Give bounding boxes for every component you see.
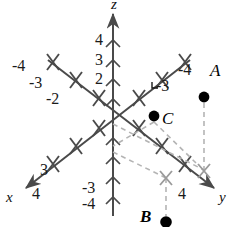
tick-label-y-neg2: -2 (46, 91, 59, 107)
coordinate-system-figure: x y z 3 4 -3 -4 4 -4 -3 -2 4 3 2 -3 -4 A… (0, 0, 236, 227)
point-label-b: B (140, 208, 151, 225)
plotted-points (149, 92, 210, 227)
projection-line-a-ground (113, 124, 204, 170)
point-label-a: A (210, 62, 220, 79)
tick-label-z-4: 4 (95, 32, 103, 48)
point-dot-a (199, 92, 210, 103)
tick-label-y-4: 4 (178, 186, 186, 202)
axis-label-y: y (219, 190, 226, 205)
point-dot-c (149, 111, 160, 122)
axis-label-x: x (6, 190, 13, 205)
axis-label-z: z (111, 0, 117, 12)
tick-label-y-neg3: -3 (29, 75, 42, 91)
tick-label-z-3: 3 (95, 52, 103, 68)
tick-label-x-neg3: -3 (156, 78, 169, 94)
ground-markers (160, 164, 210, 185)
tick-label-z-2: 2 (95, 71, 103, 87)
projection-line-b-ground (113, 152, 166, 178)
tick-label-x-3: 3 (40, 162, 48, 178)
point-label-c: C (162, 110, 173, 127)
tick-label-x-4: 4 (32, 186, 40, 202)
point-dot-b (160, 216, 172, 227)
tick-label-y-neg4: -4 (12, 58, 25, 74)
tick-label-x-neg4: -4 (178, 62, 191, 78)
tick-label-z-neg4: -4 (82, 196, 95, 212)
tick-label-z-neg3: -3 (82, 180, 95, 196)
